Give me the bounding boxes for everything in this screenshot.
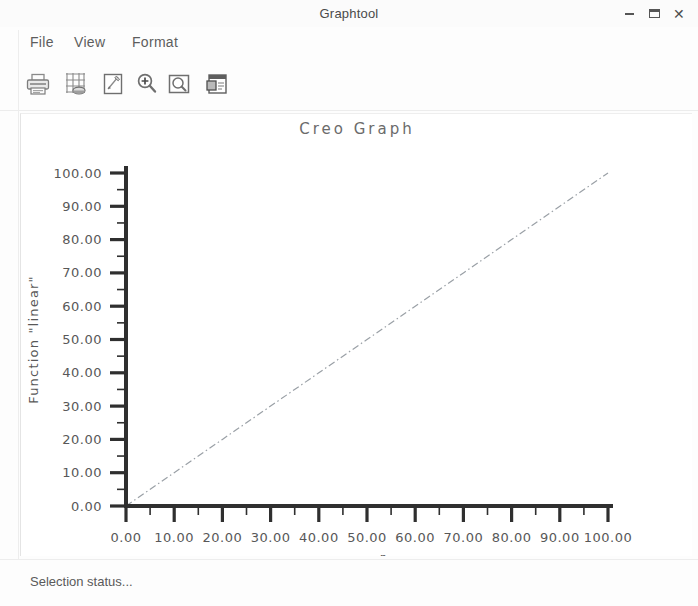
close-button[interactable]: ✕ bbox=[670, 5, 688, 23]
edit-button[interactable] bbox=[99, 70, 127, 98]
y-tick-label: 40.00 bbox=[62, 365, 102, 380]
title-bar: Graphtool ✕ bbox=[0, 0, 698, 28]
printer-icon bbox=[24, 70, 52, 98]
y-axis-title: Function "linear" bbox=[26, 275, 41, 404]
minimize-button[interactable] bbox=[620, 5, 638, 23]
x-tick-label: 40.00 bbox=[299, 530, 339, 545]
series-layer bbox=[126, 173, 608, 506]
zoom-area-icon bbox=[165, 70, 193, 98]
y-tick-label: 30.00 bbox=[62, 399, 102, 414]
y-tick-label: 90.00 bbox=[62, 199, 102, 214]
x-tick-label: 70.00 bbox=[444, 530, 484, 545]
y-tick-label: 50.00 bbox=[62, 332, 102, 347]
window-title: Graphtool bbox=[0, 0, 698, 27]
zoom-area-button[interactable] bbox=[165, 70, 193, 98]
tick-marks-layer bbox=[110, 173, 608, 522]
export-window-icon bbox=[203, 70, 231, 98]
axis-titles-layer: rFunction "linear" bbox=[26, 275, 386, 556]
y-tick-label: 100.00 bbox=[54, 166, 103, 181]
status-message: Selection status... bbox=[30, 574, 133, 589]
menu-bar: File View Format bbox=[0, 27, 698, 58]
minimize-icon bbox=[625, 13, 634, 15]
y-tick-label: 0.00 bbox=[71, 499, 102, 514]
graph-grid-icon bbox=[62, 70, 90, 98]
status-bar: Selection status... bbox=[0, 559, 698, 606]
zoom-in-icon bbox=[132, 70, 160, 98]
x-tick-label: 10.00 bbox=[154, 530, 194, 545]
export-button[interactable] bbox=[203, 70, 231, 98]
chart-canvas[interactable]: 0.0010.0020.0030.0040.0050.0060.0070.008… bbox=[21, 114, 692, 556]
x-tick-label: 90.00 bbox=[540, 530, 580, 545]
toolbar bbox=[0, 58, 698, 111]
maximize-icon bbox=[649, 9, 660, 18]
edit-note-icon bbox=[99, 70, 127, 98]
tick-labels-layer: 0.0010.0020.0030.0040.0050.0060.0070.008… bbox=[54, 166, 633, 546]
x-axis-title: r bbox=[380, 550, 387, 556]
x-tick-label: 0.00 bbox=[111, 530, 142, 545]
axes-layer bbox=[124, 166, 613, 506]
graphtool-window: Graphtool ✕ File View Format bbox=[0, 0, 698, 606]
plot-panel: Creo Graph 0.0010.0020.0030.0040.0050.00… bbox=[20, 113, 692, 556]
menu-item-file[interactable]: File bbox=[26, 31, 58, 53]
x-tick-label: 20.00 bbox=[203, 530, 243, 545]
y-tick-label: 10.00 bbox=[62, 465, 102, 480]
window-left-edge bbox=[18, 30, 19, 590]
x-tick-label: 100.00 bbox=[584, 530, 633, 545]
y-tick-label: 80.00 bbox=[62, 232, 102, 247]
maximize-button[interactable] bbox=[645, 5, 663, 23]
y-tick-label: 60.00 bbox=[62, 299, 102, 314]
y-tick-label: 20.00 bbox=[62, 432, 102, 447]
graph-settings-button[interactable] bbox=[62, 70, 90, 98]
x-tick-label: 80.00 bbox=[492, 530, 532, 545]
menu-item-view[interactable]: View bbox=[70, 31, 109, 53]
x-tick-label: 30.00 bbox=[251, 530, 291, 545]
y-tick-label: 70.00 bbox=[62, 265, 102, 280]
print-button[interactable] bbox=[24, 70, 52, 98]
series-line-linear bbox=[126, 173, 608, 506]
zoom-in-button[interactable] bbox=[132, 70, 160, 98]
menu-item-format[interactable]: Format bbox=[128, 31, 182, 53]
x-tick-label: 50.00 bbox=[347, 530, 387, 545]
x-tick-label: 60.00 bbox=[395, 530, 435, 545]
close-icon: ✕ bbox=[673, 6, 685, 22]
